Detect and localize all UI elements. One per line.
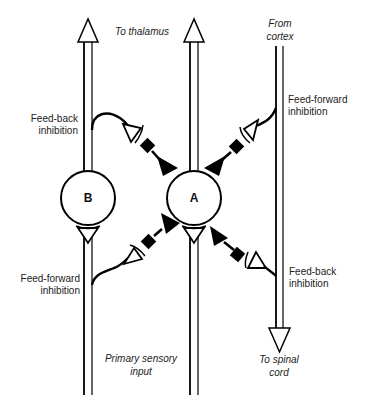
neuron-b-label: B (84, 191, 93, 205)
label-to-spinal-2: cord (269, 367, 289, 378)
label-from-cortex-1: From (268, 18, 291, 29)
feedforward-inhibition-upper-right (204, 108, 276, 176)
label-feedback-right-2: inhibition (289, 278, 328, 289)
label-feedforward-left-2: inhibition (41, 285, 80, 296)
feedforward-inhibition-lower-left (92, 213, 180, 285)
arrow-up-icon (184, 19, 204, 42)
arrow-down-icon (269, 328, 290, 352)
neuron-a-label: A (190, 191, 199, 205)
label-primary-input-2: input (130, 366, 153, 377)
neural-circuit-diagram: B A (0, 0, 372, 395)
inhibitory-synapse-icon (204, 156, 225, 176)
arrow-up-icon (78, 19, 98, 42)
label-to-thalamus: To thalamus (115, 26, 169, 37)
inhibitory-interneuron-icon (229, 139, 245, 155)
excitatory-synapse-icon (244, 120, 258, 140)
label-feedforward-right-1: Feed-forward (288, 94, 347, 105)
feedback-inhibition-upper-left (92, 114, 178, 176)
feedback-inhibition-lower-right (210, 226, 276, 276)
label-feedback-left-1: Feed-back (31, 113, 79, 124)
label-feedback-right-1: Feed-back (289, 266, 337, 277)
excitatory-synapse-icon (248, 252, 266, 268)
label-feedforward-left-1: Feed-forward (21, 273, 80, 284)
inhibitory-synapse-icon (157, 156, 178, 176)
label-to-spinal-1: To spinal (259, 354, 299, 365)
inhibitory-interneuron-icon (141, 234, 157, 250)
label-feedback-left-2: inhibition (39, 125, 78, 136)
excitatory-synapse-icon (184, 228, 204, 243)
label-primary-input-1: Primary sensory (105, 353, 178, 364)
label-from-cortex-2: cortex (266, 31, 294, 42)
label-feedforward-right-2: inhibition (288, 106, 327, 117)
neuron-b: B (61, 171, 115, 243)
excitatory-synapse-icon (78, 228, 98, 243)
corticospinal-axon (269, 46, 290, 352)
